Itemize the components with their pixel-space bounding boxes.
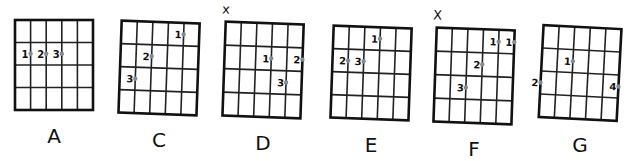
dot-icon bbox=[269, 56, 274, 61]
finger-number: 3 bbox=[277, 77, 284, 88]
fretboard-grid: 123 bbox=[330, 26, 411, 121]
finger-number: 2 bbox=[37, 49, 44, 60]
finger-number: 1 bbox=[174, 29, 181, 40]
finger-number: 3 bbox=[53, 49, 60, 60]
dot-icon bbox=[60, 52, 64, 56]
chord-name: G bbox=[560, 133, 600, 157]
finger-number: 2 bbox=[531, 77, 539, 88]
finger-number: 1 bbox=[262, 53, 269, 64]
chord-name: D bbox=[243, 131, 283, 155]
chord-name: A bbox=[34, 124, 74, 148]
dot-icon bbox=[571, 59, 576, 64]
chord-name: E bbox=[351, 133, 391, 157]
dot-icon bbox=[346, 58, 351, 63]
dot-icon bbox=[300, 57, 305, 62]
dot-icon bbox=[616, 84, 621, 89]
dot-icon bbox=[149, 54, 154, 59]
dot-icon bbox=[480, 62, 485, 67]
chord-name: C bbox=[139, 128, 179, 152]
chord-name: F bbox=[454, 137, 494, 161]
dot-icon bbox=[512, 40, 517, 45]
fretboard-grid: 124 bbox=[539, 25, 622, 121]
fretboard-grid: 123 bbox=[118, 21, 199, 116]
finger-number: 2 bbox=[339, 55, 346, 66]
finger-number: 2 bbox=[473, 59, 480, 70]
finger-number: 1 bbox=[505, 37, 512, 48]
chord-c: 123 bbox=[118, 21, 199, 120]
finger-number: 1 bbox=[371, 33, 378, 44]
finger-number: 1 bbox=[489, 36, 496, 47]
chord-f: 1123X bbox=[433, 28, 514, 129]
finger-number: 1 bbox=[22, 49, 29, 60]
dot-icon bbox=[133, 76, 138, 81]
fretboard-grid: 123x bbox=[222, 22, 303, 119]
dot-icon bbox=[284, 80, 289, 85]
fretboard-grid: 1123X bbox=[433, 28, 514, 125]
fretboard-grid: 123 bbox=[15, 20, 93, 110]
chord-a: 123 bbox=[15, 20, 93, 114]
finger-number: 4 bbox=[609, 81, 617, 92]
finger-number: 2 bbox=[293, 54, 300, 65]
dot-icon bbox=[538, 80, 543, 85]
dot-icon bbox=[464, 85, 469, 90]
finger-number: 1 bbox=[564, 56, 572, 67]
muted-string-icon: X bbox=[433, 8, 443, 23]
dot-icon bbox=[361, 59, 366, 64]
chord-e: 123 bbox=[330, 26, 411, 125]
dot-icon bbox=[496, 39, 501, 44]
dot-icon bbox=[378, 37, 383, 42]
finger-number: 3 bbox=[457, 82, 464, 93]
chord-d: 123x bbox=[222, 22, 303, 123]
muted-string-icon: x bbox=[222, 2, 231, 17]
finger-number: 3 bbox=[354, 56, 361, 67]
dot-icon bbox=[181, 32, 186, 37]
chord-g: 124 bbox=[539, 25, 622, 125]
finger-number: 2 bbox=[142, 51, 149, 62]
dot-icon bbox=[28, 52, 32, 56]
finger-number: 3 bbox=[126, 73, 133, 84]
dot-icon bbox=[44, 52, 48, 56]
